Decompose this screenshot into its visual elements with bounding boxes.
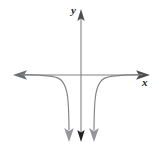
right-branch-curve (94, 75, 142, 130)
x-axis-label: x (142, 77, 148, 88)
left-branch-curve (21, 75, 69, 130)
coordinate-plane-svg (0, 0, 162, 149)
graph-figure: y x (0, 0, 162, 149)
y-axis-label: y (71, 5, 76, 16)
